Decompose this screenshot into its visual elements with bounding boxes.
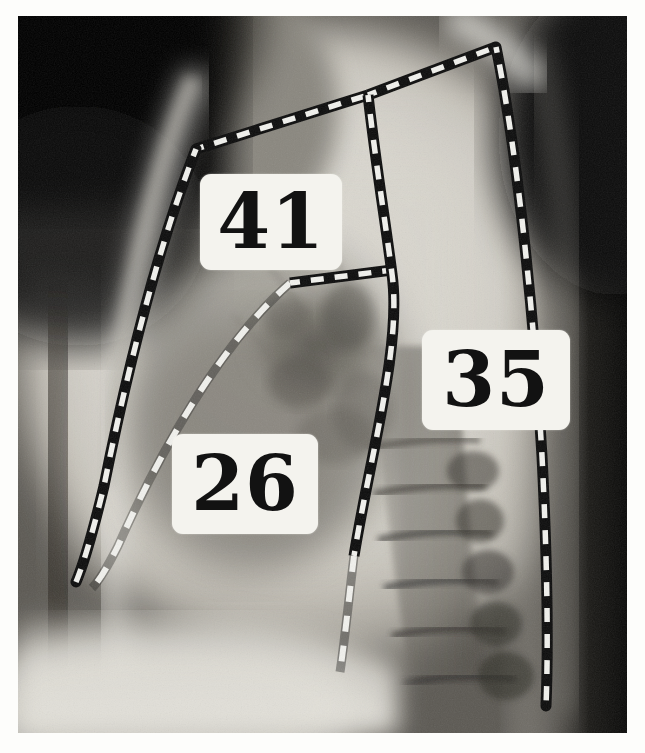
- region-label-26-text: 26: [191, 446, 298, 522]
- region-label-41: 41: [200, 174, 342, 270]
- region-label-26: 26: [172, 434, 318, 534]
- figure-root: 41 26 35: [0, 0, 645, 753]
- region-label-35-text: 35: [442, 342, 549, 418]
- region-label-41-text: 41: [217, 184, 324, 260]
- region-label-35: 35: [422, 330, 570, 430]
